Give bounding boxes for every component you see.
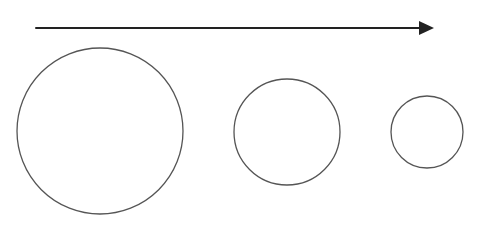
circle-medium bbox=[234, 79, 340, 185]
circles-group bbox=[17, 48, 463, 214]
diagram-svg bbox=[0, 0, 478, 227]
diagram-canvas bbox=[0, 0, 478, 227]
arrow bbox=[36, 21, 434, 35]
arrow-head-icon bbox=[419, 21, 434, 35]
circle-large bbox=[17, 48, 183, 214]
circle-small bbox=[391, 96, 463, 168]
